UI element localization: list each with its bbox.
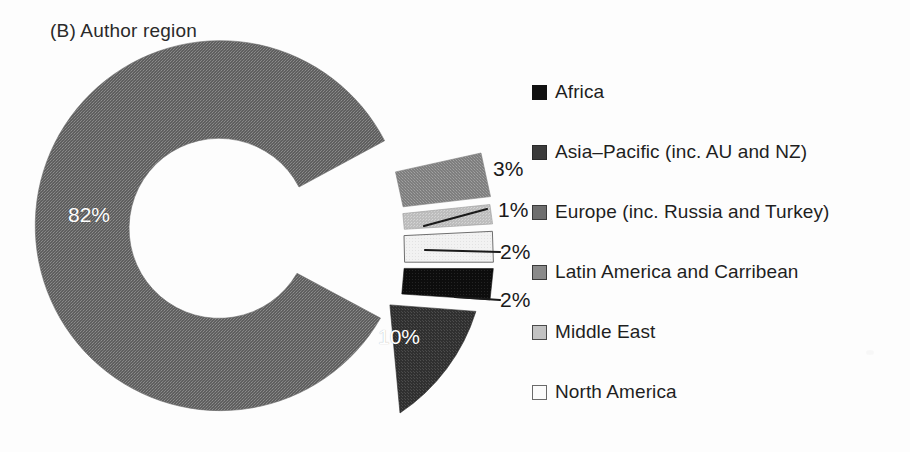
legend-item-africa[interactable]: Africa [532, 62, 908, 122]
legend-label-africa: Africa [555, 81, 604, 103]
legend-swatch-europe [532, 205, 547, 220]
legend-swatch-africa [532, 85, 547, 100]
pie-slice-middle-east[interactable] [403, 205, 493, 230]
legend-label-latin-america: Latin America and Carribean [555, 261, 799, 283]
legend-item-asia-pacific[interactable]: Asia–Pacific (inc. AU and NZ) [532, 122, 908, 182]
pie-slice-north-america[interactable] [404, 231, 493, 262]
leader-line-2pct-africa [455, 297, 500, 300]
pie-slice-africa[interactable] [402, 268, 494, 299]
pie-label-north-america: 2% [500, 240, 530, 264]
legend-item-europe[interactable]: Europe (inc. Russia and Turkey) [532, 182, 908, 242]
legend-label-europe: Europe (inc. Russia and Turkey) [555, 201, 830, 223]
legend-item-middle-east[interactable]: Middle East [532, 302, 908, 362]
pie-label-europe: 82% [68, 203, 110, 227]
legend-swatch-north-america [532, 385, 547, 400]
legend-label-middle-east: Middle East [555, 321, 655, 343]
legend-item-latin-america[interactable]: Latin America and Carribean [532, 242, 908, 302]
pie-slice-latin-america[interactable] [396, 153, 491, 207]
pie-label-middle-east: 1% [498, 198, 528, 222]
legend-label-asia-pacific: Asia–Pacific (inc. AU and NZ) [555, 141, 807, 163]
legend-swatch-asia-pacific [532, 145, 547, 160]
pie-label-africa: 2% [500, 288, 530, 312]
pie-label-latin-america: 3% [493, 157, 523, 181]
legend-swatch-middle-east [532, 325, 547, 340]
legend-label-north-america: North America [555, 381, 677, 403]
legend: Africa Asia–Pacific (inc. AU and NZ) Eur… [532, 62, 908, 422]
pie-label-asia-pacific: 10% [378, 325, 420, 349]
legend-item-north-america[interactable]: North America [532, 362, 908, 422]
pie-chart-plot-area: 82% 10% [0, 0, 530, 452]
legend-swatch-latin-america [532, 265, 547, 280]
scan-artifact [866, 350, 874, 355]
pie-slice-asia-pacific[interactable] [390, 305, 476, 413]
